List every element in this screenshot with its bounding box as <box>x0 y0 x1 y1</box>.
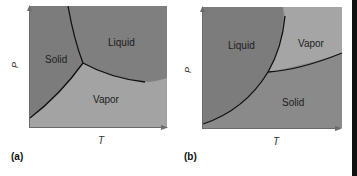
caption-b: (b) <box>184 151 197 162</box>
page-edge-bar <box>352 0 357 176</box>
label-solid-a: Solid <box>45 54 67 65</box>
caption-a: (a) <box>11 151 23 162</box>
ylabel-b: P <box>183 67 193 73</box>
panel-b <box>200 6 342 131</box>
xlabel-b: T <box>273 136 279 147</box>
label-vapor-b: Vapor <box>298 38 324 49</box>
xlabel-a: T <box>98 135 104 146</box>
phase-diagrams <box>0 0 357 176</box>
panel-a <box>27 5 168 130</box>
label-liquid-a: Liquid <box>108 37 135 48</box>
ylabel-a: P <box>10 62 20 68</box>
label-vapor-a: Vapor <box>93 94 119 105</box>
label-solid-b: Solid <box>282 97 304 108</box>
label-liquid-b: Liquid <box>228 40 255 51</box>
